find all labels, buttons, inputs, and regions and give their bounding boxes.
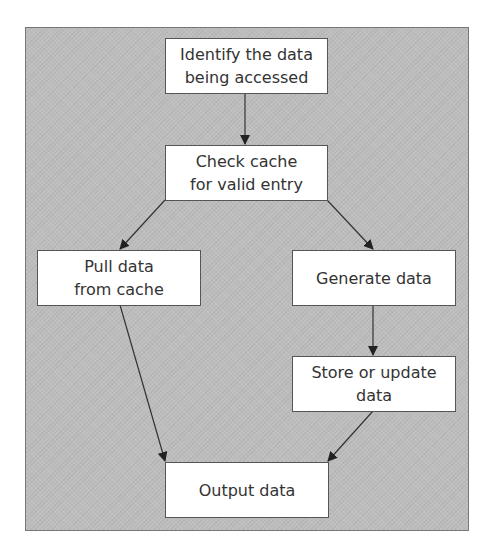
node-label: Check cache for valid entry [190,150,303,196]
arrow-check-to-pull [120,200,165,249]
node-generate: Generate data [292,250,456,306]
node-pull: Pull data from cache [37,250,201,306]
node-label: Generate data [316,267,432,290]
node-label: Identify the data being accessed [180,43,313,89]
node-store: Store or update data [292,356,456,412]
node-label: Output data [199,479,296,502]
node-label: Pull data from cache [74,255,164,301]
arrow-pull-to-output [120,305,165,461]
node-check: Check cache for valid entry [165,145,328,201]
node-label: Store or update data [311,361,436,407]
arrow-store-to-output [328,411,373,461]
node-output: Output data [165,462,329,518]
arrow-check-to-generate [327,200,373,249]
node-identify: Identify the data being accessed [165,38,328,94]
